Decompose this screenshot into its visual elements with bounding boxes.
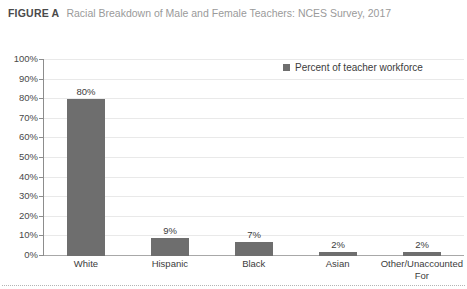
x-axis-tick-label: Hispanic	[128, 258, 212, 281]
x-axis-tick-label: White	[44, 258, 128, 281]
y-axis-tick-mark	[39, 235, 43, 236]
bar-value-label: 2%	[296, 239, 380, 250]
bar-slot: 2%	[380, 59, 464, 256]
figure-header: FIGURE ARacial Breakdown of Male and Fem…	[0, 0, 467, 20]
y-axis-tick-mark	[39, 196, 43, 197]
y-axis-tick-label: 100%	[2, 54, 38, 64]
y-axis-tick-labels: 100%90%80%70%60%50%40%30%20%10%0%	[0, 59, 38, 256]
bar-value-label: 7%	[212, 229, 296, 240]
bar[interactable]	[235, 242, 273, 256]
legend-swatch-icon	[283, 64, 290, 71]
bar[interactable]	[319, 252, 357, 256]
legend-label: Percent of teacher workforce	[295, 62, 423, 73]
bar-value-label: 2%	[380, 239, 464, 250]
bar-slot: 2%	[296, 59, 380, 256]
bar[interactable]	[151, 238, 189, 256]
y-axis-tick-label: 50%	[2, 152, 38, 162]
y-axis-tick-mark	[39, 79, 43, 80]
bar-slot: 7%	[212, 59, 296, 256]
y-axis-tick-mark	[39, 157, 43, 158]
y-axis-tick-mark	[39, 137, 43, 138]
bar-value-label: 9%	[128, 225, 212, 236]
y-axis-tick-label: 30%	[2, 191, 38, 201]
y-axis-tick-label: 20%	[2, 211, 38, 221]
y-axis-tick-mark	[39, 216, 43, 217]
bar-chart: 100%90%80%70%60%50%40%30%20%10%0% 80%9%7…	[0, 50, 467, 278]
y-axis-tick-label: 80%	[2, 93, 38, 103]
bar-value-label: 80%	[44, 86, 128, 97]
chart-legend: Percent of teacher workforce	[283, 62, 423, 73]
bar-slot: 80%	[44, 59, 128, 256]
y-axis-tick-label: 40%	[2, 172, 38, 182]
bottom-divider	[2, 285, 465, 286]
y-axis-tick-label: 10%	[2, 230, 38, 240]
figure-label: FIGURE A	[8, 7, 59, 19]
y-axis-tick-label: 0%	[2, 250, 38, 260]
y-axis-tick-mark	[39, 59, 43, 60]
y-axis-tick-mark	[39, 177, 43, 178]
x-axis-tick-label: Other/Unaccounted For	[380, 258, 464, 281]
y-axis-tick-label: 70%	[2, 113, 38, 123]
x-axis-tick-labels: WhiteHispanicBlackAsianOther/Unaccounted…	[44, 258, 464, 281]
bar[interactable]	[67, 99, 105, 256]
x-axis-tick-label: Black	[212, 258, 296, 281]
bar-slot: 9%	[128, 59, 212, 256]
y-axis-tick-mark	[39, 255, 43, 256]
y-axis-tick-label: 60%	[2, 132, 38, 142]
page-title: Racial Breakdown of Male and Female Teac…	[66, 7, 391, 19]
y-axis-tick-label: 90%	[2, 74, 38, 84]
x-axis-tick-label: Asian	[296, 258, 380, 281]
y-axis-tick-mark	[39, 118, 43, 119]
bar[interactable]	[403, 252, 441, 256]
y-axis-tick-mark	[39, 98, 43, 99]
bar-series: 80%9%7%2%2%	[44, 59, 464, 256]
